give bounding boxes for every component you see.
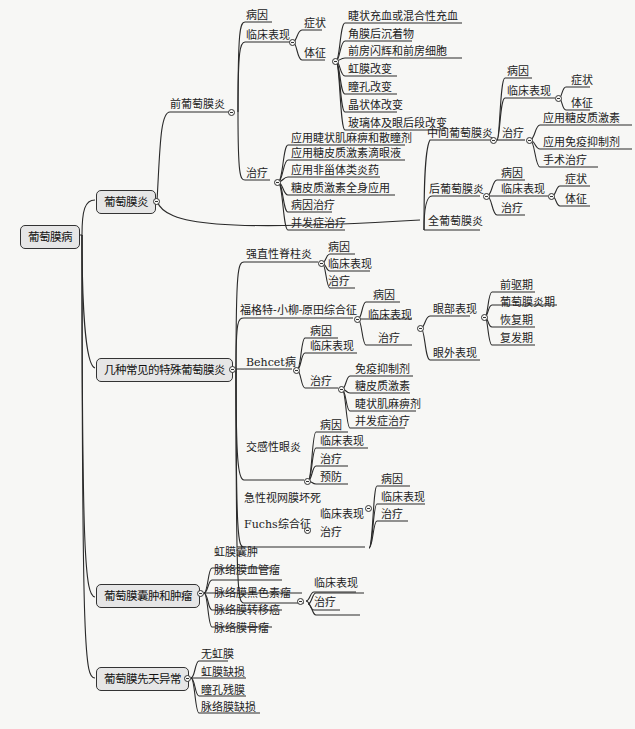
node-clinical[interactable]: 临床表现 xyxy=(246,29,290,42)
collapse-toggle-icon[interactable] xyxy=(481,314,488,321)
sign-item[interactable]: 前房闪辉和前房细胞 xyxy=(348,45,447,58)
node-treatment[interactable]: 治疗 xyxy=(246,167,268,180)
node-treatment[interactable]: 治疗 xyxy=(320,526,342,539)
treatment-item[interactable]: 应用免疫抑制剂 xyxy=(543,136,620,149)
node-clinical[interactable]: 临床表现 xyxy=(507,85,551,98)
congenital-item[interactable]: 脉络膜缺损 xyxy=(201,701,256,714)
node-cause[interactable]: 病因 xyxy=(381,473,403,486)
tumor-item[interactable]: 脉络膜骨瘤 xyxy=(214,622,269,635)
collapse-toggle-icon[interactable] xyxy=(526,137,533,144)
node-treatment[interactable]: 治疗 xyxy=(328,275,350,288)
node-acute-retinal-necrosis[interactable]: 急性视网膜坏死 xyxy=(244,492,321,505)
node-sign[interactable]: 体征 xyxy=(565,193,587,206)
node-sign[interactable]: 体征 xyxy=(571,97,593,110)
collapse-toggle-icon[interactable] xyxy=(274,179,281,186)
node-congenital[interactable]: 葡萄膜先天异常 xyxy=(96,667,189,691)
node-treatment[interactable]: 治疗 xyxy=(310,375,332,388)
node-cause[interactable]: 病因 xyxy=(246,9,268,22)
node-clinical[interactable]: 临床表现 xyxy=(501,183,545,196)
collapse-toggle-icon[interactable] xyxy=(483,193,490,200)
treatment-item[interactable]: 应用糖皮质激素滴眼液 xyxy=(291,147,401,160)
collapse-toggle-icon[interactable] xyxy=(332,58,339,65)
node-symptom[interactable]: 症状 xyxy=(304,17,326,30)
collapse-toggle-icon[interactable] xyxy=(304,527,311,534)
sign-item[interactable]: 瞳孔改变 xyxy=(348,81,392,94)
node-treatment[interactable]: 治疗 xyxy=(501,202,523,215)
node-clinical[interactable]: 临床表现 xyxy=(368,309,412,322)
node-behcet[interactable]: Behcet病 xyxy=(246,356,296,369)
collapse-toggle-icon[interactable] xyxy=(490,137,497,144)
sign-item[interactable]: 虹膜改变 xyxy=(348,63,392,76)
stage-item[interactable]: 复发期 xyxy=(500,332,533,345)
node-panuveitis[interactable]: 全葡萄膜炎 xyxy=(428,215,483,228)
tumor-item[interactable]: 脉络膜黑色素瘤 xyxy=(214,587,291,600)
treatment-item[interactable]: 糖皮质激素全身应用 xyxy=(291,182,390,195)
treatment-item[interactable]: 并发症治疗 xyxy=(291,217,346,230)
tumor-item[interactable]: 脉络膜血管瘤 xyxy=(214,564,280,577)
node-symptom[interactable]: 症状 xyxy=(571,74,593,87)
sign-item[interactable]: 睫状充血或混合性充血 xyxy=(348,10,458,23)
congenital-item[interactable]: 瞳孔残膜 xyxy=(201,684,245,697)
node-clinical[interactable]: 临床表现 xyxy=(310,340,354,353)
treatment-item[interactable]: 睫状肌麻痹剂 xyxy=(355,398,421,411)
node-cause[interactable]: 病因 xyxy=(310,325,332,338)
node-uveitis[interactable]: 葡萄膜炎 xyxy=(96,190,156,214)
collapse-toggle-icon[interactable] xyxy=(229,366,236,373)
treatment-item[interactable]: 病因治疗 xyxy=(291,199,335,212)
stage-item[interactable]: 葡萄膜炎期 xyxy=(500,296,555,309)
node-prevention[interactable]: 预防 xyxy=(320,471,342,484)
collapse-toggle-icon[interactable] xyxy=(365,505,372,512)
congenital-item[interactable]: 无虹膜 xyxy=(201,648,234,661)
node-clinical[interactable]: 临床表现 xyxy=(328,258,372,271)
node-sign[interactable]: 体征 xyxy=(304,47,326,60)
node-clinical[interactable]: 临床表现 xyxy=(381,491,425,504)
node-clinical[interactable]: 临床表现 xyxy=(320,508,364,521)
node-cause[interactable]: 病因 xyxy=(501,167,523,180)
collapse-toggle-icon[interactable] xyxy=(184,675,191,682)
node-cause[interactable]: 病因 xyxy=(320,419,342,432)
node-ocular-signs[interactable]: 眼部表现 xyxy=(433,303,477,316)
collapse-toggle-icon[interactable] xyxy=(228,109,235,116)
node-sympathetic-ophthalmia[interactable]: 交感性眼炎 xyxy=(246,441,301,454)
node-cause[interactable]: 病因 xyxy=(373,289,395,302)
node-fuchs-syndrome[interactable]: Fuchs综合征 xyxy=(244,518,311,531)
collapse-toggle-icon[interactable] xyxy=(289,39,296,46)
collapse-toggle-icon[interactable] xyxy=(304,478,311,485)
treatment-item[interactable]: 并发症治疗 xyxy=(355,415,410,428)
stage-item[interactable]: 前驱期 xyxy=(500,279,533,292)
collapse-toggle-icon[interactable] xyxy=(555,95,562,102)
node-extraocular-signs[interactable]: 眼外表现 xyxy=(433,347,477,360)
node-cysts-tumors[interactable]: 葡萄膜囊肿和肿瘤 xyxy=(96,584,200,608)
node-cause[interactable]: 病因 xyxy=(507,65,529,78)
collapse-toggle-icon[interactable] xyxy=(548,193,555,200)
collapse-toggle-icon[interactable] xyxy=(297,598,304,605)
node-clinical[interactable]: 临床表现 xyxy=(320,435,364,448)
node-ankylosing-spondylitis[interactable]: 强直性脊柱炎 xyxy=(246,248,312,261)
node-cause[interactable]: 病因 xyxy=(328,241,350,254)
node-symptom[interactable]: 症状 xyxy=(565,173,587,186)
treatment-item[interactable]: 糖皮质激素 xyxy=(355,380,410,393)
treatment-item[interactable]: 应用非甾体类炎药 xyxy=(291,164,379,177)
node-posterior-uveitis[interactable]: 后葡萄膜炎 xyxy=(429,183,484,196)
collapse-toggle-icon[interactable] xyxy=(417,325,424,332)
sign-item[interactable]: 角膜后沉着物 xyxy=(348,28,414,41)
node-treatment[interactable]: 治疗 xyxy=(502,127,524,140)
collapse-toggle-icon[interactable] xyxy=(318,260,325,267)
node-anterior-uveitis[interactable]: 前葡萄膜炎 xyxy=(170,98,225,111)
collapse-toggle-icon[interactable] xyxy=(338,386,345,393)
treatment-item[interactable]: 手术治疗 xyxy=(543,154,587,167)
stage-item[interactable]: 恢复期 xyxy=(500,314,533,327)
node-treatment[interactable]: 治疗 xyxy=(378,332,400,345)
treatment-item[interactable]: 免疫抑制剂 xyxy=(355,363,410,376)
collapse-toggle-icon[interactable] xyxy=(153,198,160,205)
sign-item[interactable]: 晶状体改变 xyxy=(348,99,403,112)
treatment-item[interactable]: 应用糖皮质激素 xyxy=(543,112,620,125)
node-treatment[interactable]: 治疗 xyxy=(381,508,403,521)
tumor-item[interactable]: 虹膜囊肿 xyxy=(214,546,258,559)
congenital-item[interactable]: 虹膜缺损 xyxy=(201,666,245,679)
collapse-toggle-icon[interactable] xyxy=(354,316,361,323)
node-treatment[interactable]: 治疗 xyxy=(320,453,342,466)
treatment-item[interactable]: 应用睫状肌麻痹和散瞳剂 xyxy=(291,132,412,145)
root-node[interactable]: 葡萄膜病 xyxy=(20,225,80,249)
node-special-uveitis[interactable]: 几种常见的特殊葡萄膜炎 xyxy=(96,358,233,382)
